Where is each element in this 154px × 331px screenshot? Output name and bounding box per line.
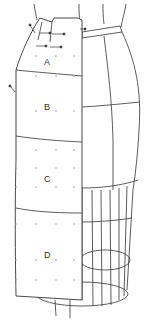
panel-label-b: B: [44, 102, 50, 112]
panel-label-d: D: [44, 250, 51, 260]
form-lower-hip-line: [82, 180, 138, 188]
cage-ring-2: [80, 250, 130, 270]
form-right-torso-outer: [121, 4, 126, 27]
form-hip-curve: [122, 32, 140, 190]
form-side-seam: [104, 36, 113, 190]
skirt-draping-diagram: A B C D: [0, 0, 154, 331]
cage-ring-1: [82, 218, 132, 222]
cage-right: [127, 190, 133, 290]
form-left-torso-line: [34, 4, 37, 20]
panel-label-a: A: [44, 57, 50, 67]
fabric-panel: A B C D: [9, 18, 86, 300]
waistband-right: [82, 26, 122, 38]
pin-head-icon: [49, 32, 51, 34]
form-right-torso-inner: [103, 4, 104, 24]
panel-label-c: C: [44, 174, 51, 184]
